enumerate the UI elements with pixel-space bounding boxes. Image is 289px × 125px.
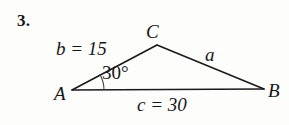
vertex-label-b: B — [268, 81, 280, 100]
vertex-label-c: C — [146, 22, 159, 41]
problem-number: 3. — [17, 12, 30, 29]
side-label-b: b = 15 — [56, 39, 107, 58]
vertex-label-a: A — [54, 84, 66, 103]
side-c-line — [72, 89, 264, 90]
angle-label-a: 30° — [102, 63, 129, 82]
side-label-c: c = 30 — [137, 95, 187, 114]
side-label-a: a — [205, 45, 215, 64]
